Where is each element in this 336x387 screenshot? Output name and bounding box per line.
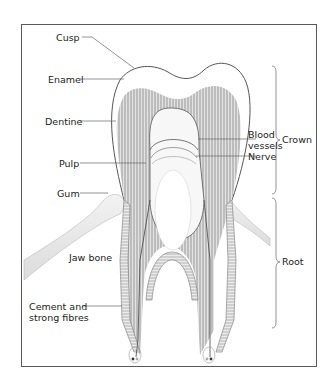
tooth-diagram [0,0,336,387]
label-cement-line2: strong fibres [29,312,89,323]
label-root: Root [282,256,304,267]
label-pulp: Pulp [59,158,79,169]
label-dentine: Dentine [45,116,82,127]
label-enamel: Enamel [48,74,84,85]
label-jaw-bone: Jaw bone [69,252,112,263]
label-blood-line2: vessels [248,140,283,151]
label-nerve: Nerve [248,151,276,162]
gum-left [24,194,125,280]
label-cusp: Cusp [56,32,80,43]
label-gum: Gum [57,188,80,199]
label-blood-line1: Blood [248,129,275,140]
label-cement-line1: Cement and [29,301,87,312]
label-crown: Crown [282,134,312,145]
root-bracket [272,198,280,328]
